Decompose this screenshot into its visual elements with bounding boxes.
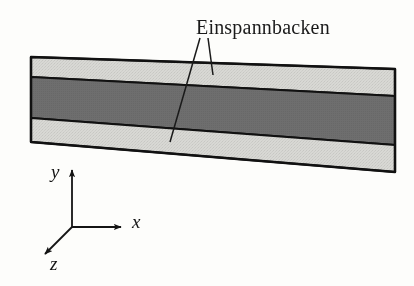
x-axis-label: x [132,211,140,233]
z-axis-label: z [50,253,57,275]
z-axis-line [45,227,72,254]
diagram-canvas [0,0,414,286]
einspannbacken-label: Einspannbacken [196,16,330,39]
technical-diagram-figure: Einspannbacken y x z [0,0,414,286]
y-axis-label: y [51,161,59,183]
